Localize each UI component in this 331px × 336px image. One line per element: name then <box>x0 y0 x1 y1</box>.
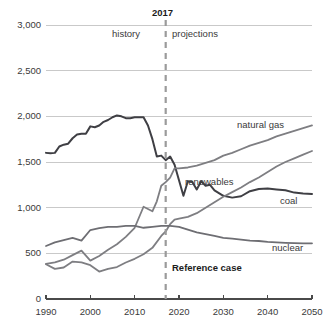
y-tick-label-500: 500 <box>0 248 41 258</box>
series-label-nuclear: nuclear <box>272 243 303 253</box>
annotation-projections: projections <box>172 29 218 39</box>
x-tick-label-2050: 2050 <box>292 307 331 317</box>
annotation-history: history <box>112 29 140 39</box>
x-tick-label-1990: 1990 <box>26 307 66 317</box>
chart-container: 05001,0001,5002,0002,5003,000 1990200020… <box>0 0 331 336</box>
annotation-reference-case: Reference case <box>172 263 242 273</box>
x-tick-label-2030: 2030 <box>203 307 243 317</box>
x-tick-label-2010: 2010 <box>115 307 155 317</box>
y-tick-label-2000: 2,000 <box>0 111 41 121</box>
x-tick-label-2020: 2020 <box>159 307 199 317</box>
series-label-coal: coal <box>280 196 297 206</box>
y-tick-label-1500: 1,500 <box>0 157 41 167</box>
y-tick-label-0: 0 <box>0 294 41 304</box>
series-label-natural-gas: natural gas <box>237 120 284 130</box>
y-tick-label-2500: 2,500 <box>0 66 41 76</box>
y-tick-label-1000: 1,000 <box>0 203 41 213</box>
series-label-renewables: renewables <box>185 177 234 187</box>
x-tick-label-2040: 2040 <box>248 307 288 317</box>
x-tick-label-2000: 2000 <box>70 307 110 317</box>
chart-plot-area <box>0 0 331 336</box>
y-tick-label-3000: 3,000 <box>0 20 41 30</box>
x-axis <box>46 295 312 299</box>
chart-title-2017: 2017 <box>152 8 173 18</box>
